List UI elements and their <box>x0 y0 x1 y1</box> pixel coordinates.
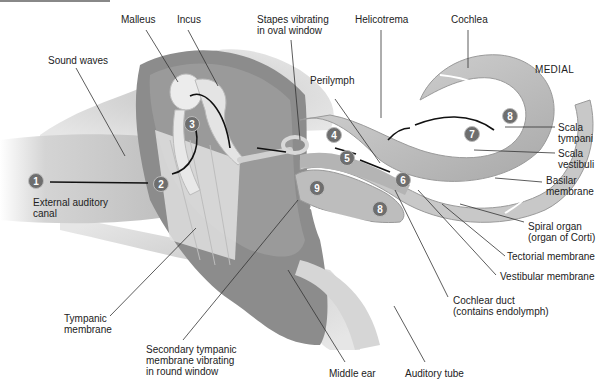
step-marker-2: 2 <box>153 176 169 192</box>
label-vestibular-membrane: Vestibular membrane <box>500 271 595 282</box>
label-basilar-membrane: Basilar membrane <box>546 175 594 197</box>
label-perilymph: Perilymph <box>310 75 354 86</box>
label-cochlea: Cochlea <box>451 14 488 25</box>
step-marker-3: 3 <box>184 116 200 132</box>
label-scala-vestibuli: Scala vestibuli <box>558 148 594 170</box>
step-marker-5: 5 <box>339 150 355 166</box>
label-helicotrema: Helicotrema <box>355 14 408 25</box>
step-marker-8-lower: 8 <box>372 201 388 217</box>
label-medial: MEDIAL <box>535 64 574 75</box>
label-secondary-tympanic-membrane: Secondary tympanic membrane vibrating in… <box>146 344 237 377</box>
step-marker-4: 4 <box>326 127 342 143</box>
label-external-auditory-canal: External auditory canal <box>33 197 108 219</box>
label-stapes: Stapes vibrating in oval window <box>257 14 329 36</box>
label-incus: Incus <box>177 14 201 25</box>
step-marker-6: 6 <box>395 172 411 188</box>
label-auditory-tube: Auditory tube <box>405 368 464 379</box>
step-marker-9: 9 <box>309 180 325 196</box>
step-marker-1: 1 <box>28 173 44 189</box>
label-tympanic-membrane: Tympanic membrane <box>64 313 112 335</box>
label-middle-ear: Middle ear <box>329 368 376 379</box>
label-cochlear-duct: Cochlear duct (contains endolymph) <box>453 295 549 317</box>
label-spiral-organ: Spiral organ (organ of Corti) <box>528 221 595 243</box>
step-marker-7: 7 <box>464 126 480 142</box>
label-malleus: Malleus <box>121 14 155 25</box>
label-scala-tympani: Scala tympani <box>558 122 593 144</box>
step-marker-8-upper: 8 <box>502 108 518 124</box>
label-tectorial-membrane: Tectorial membrane <box>507 251 595 262</box>
label-sound-waves: Sound waves <box>48 55 108 66</box>
